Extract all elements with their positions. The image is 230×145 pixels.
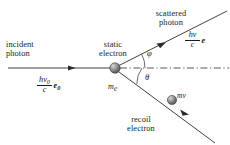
incident-photon-label-line1: incident xyxy=(6,40,66,49)
incident-unit-vector-subscript: 0 xyxy=(57,83,60,90)
angle-phi-label: φ xyxy=(147,49,152,58)
incident-momentum-fraction: hν0 c xyxy=(37,76,52,95)
static-electron-label-line1: static xyxy=(82,40,144,49)
scattered-momentum-fraction: hν c xyxy=(185,31,200,49)
recoil-electron-label: recoil electron xyxy=(113,115,169,133)
incident-photon-label: incident photon xyxy=(6,40,66,58)
scattered-unit-vector: e xyxy=(202,36,206,45)
angle-theta-label: θ xyxy=(145,73,149,82)
recoil-electron-label-line1: recoil xyxy=(113,115,169,124)
scattered-photon-label-line1: scattered xyxy=(139,9,203,18)
scattered-momentum-numerator: hν xyxy=(188,31,198,40)
scattered-momentum-expression: hν c e xyxy=(185,31,205,49)
scattered-photon-label-line2: photon xyxy=(139,18,203,27)
scattered-photon-label: scattered photon xyxy=(139,9,203,27)
incident-momentum-denominator: c xyxy=(42,86,48,95)
electron-mass-label: me xyxy=(108,75,117,93)
incident-unit-vector: e0 xyxy=(54,81,61,91)
electron-mass-subscript: e xyxy=(114,85,117,93)
incident-numerator-symbol: hν xyxy=(39,75,47,84)
static-electron-sphere xyxy=(110,63,120,73)
incident-photon-label-line2: photon xyxy=(6,49,66,58)
static-electron-label-line2: electron xyxy=(82,49,144,58)
recoil-electron-sphere xyxy=(167,95,176,104)
incident-momentum-numerator: hν0 xyxy=(38,76,51,85)
recoil-electron-arrowhead xyxy=(180,110,189,116)
recoil-momentum-label: mv xyxy=(177,92,186,100)
static-electron-label: static electron xyxy=(82,40,144,58)
scattered-photon-arrowhead xyxy=(157,42,166,48)
angle-theta-arc xyxy=(137,68,142,84)
incident-numerator-subscript: 0 xyxy=(47,78,50,85)
incident-momentum-expression: hν0 c e0 xyxy=(37,76,60,95)
scattered-momentum-denominator: c xyxy=(190,40,196,49)
incident-photon-arrowhead xyxy=(68,65,76,70)
compton-scattering-figure: incident photon static electron scattere… xyxy=(0,0,230,145)
recoil-electron-label-line2: electron xyxy=(113,124,169,133)
